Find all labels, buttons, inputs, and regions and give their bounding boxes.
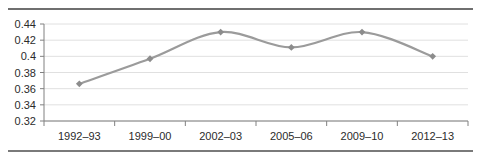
y-axis-tick-label: 0.4 (21, 50, 36, 62)
y-tick-marks-group (40, 24, 44, 121)
x-axis-tick-label: 2009–10 (341, 130, 384, 142)
y-axis-tick-label: 0.34 (15, 99, 36, 111)
y-axis-tick-labels-group: 0.320.340.360.380.40.420.44 (15, 18, 36, 127)
data-point-marker (429, 53, 436, 60)
y-axis-tick-label: 0.38 (15, 67, 36, 79)
data-point-marker (288, 44, 295, 51)
y-axis-tick-label: 0.32 (15, 115, 36, 127)
top-divider-rule (8, 8, 473, 10)
x-axis-tick-label: 1992–93 (58, 130, 101, 142)
y-axis-tick-label: 0.36 (15, 83, 36, 95)
chart-figure: 0.320.340.360.380.40.420.44 1992–931999–… (0, 0, 481, 161)
data-point-marker (217, 29, 224, 36)
bottom-divider-rule (8, 150, 473, 152)
x-axis-tick-label: 2005–06 (270, 130, 313, 142)
x-axis-tick-label: 2002–03 (199, 130, 242, 142)
y-axis-tick-label: 0.44 (15, 18, 36, 30)
series-markers-group (76, 29, 436, 88)
line-chart-svg: 0.320.340.360.380.40.420.44 1992–931999–… (0, 18, 481, 146)
x-axis-tick-label: 2012–13 (411, 130, 454, 142)
y-axis-tick-label: 0.42 (15, 34, 36, 46)
plot-area: 0.320.340.360.380.40.420.44 1992–931999–… (0, 18, 481, 146)
data-point-marker (359, 29, 366, 36)
x-axis-tick-labels-group: 1992–931999–002002–032005–062009–102012–… (58, 130, 454, 142)
data-point-marker (76, 80, 83, 87)
x-axis-tick-label: 1999–00 (129, 130, 172, 142)
x-tick-marks-group (44, 121, 468, 126)
